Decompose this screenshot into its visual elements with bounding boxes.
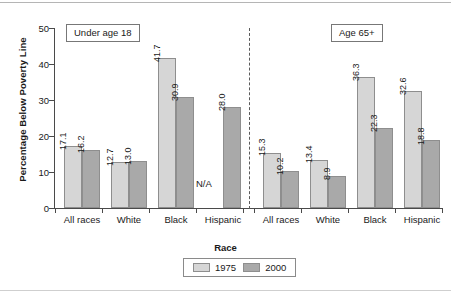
na-label-p0-hispanic-1975: N/A (196, 178, 212, 189)
bar-chart-figure: Percentage Below Poverty Line 0 10 20 30… (0, 0, 451, 294)
x-tick-0 (55, 208, 56, 213)
bar-value-p1-allraces-1975: 15.3 (257, 138, 267, 156)
legend-swatch-2000 (243, 263, 260, 272)
y-tick-label-0: 0 (25, 204, 49, 213)
bar-value-p0-hispanic-2000: 28.0 (217, 93, 227, 111)
panel-divider (249, 28, 250, 209)
y-tick-label-30: 30 (25, 96, 49, 105)
y-tick-label-50: 50 (25, 24, 49, 33)
legend-label-1975: 1975 (215, 262, 236, 273)
y-tick-20 (49, 136, 55, 137)
chart-legend: 1975 2000 (183, 258, 296, 277)
x-label-p1-hispanic: Hispanic (387, 214, 451, 225)
bar-p0-allraces-1975 (64, 146, 82, 208)
plot-area: 0 10 20 30 40 50 17.1 16.2 12.7 13.0 41.… (55, 28, 443, 208)
panel-annotation-under-18: Under age 18 (66, 24, 140, 42)
y-tick-30 (49, 100, 55, 101)
legend-label-2000: 2000 (265, 262, 286, 273)
bar-value-p1-hispanic-2000: 18.8 (416, 127, 426, 145)
bar-value-p0-black-1975: 41.7 (152, 44, 162, 62)
bar-value-p0-allraces-2000: 16.2 (76, 135, 86, 153)
bar-p1-black-2000 (375, 128, 393, 208)
y-axis-title: Percentage Below Poverty Line (17, 10, 28, 210)
bar-p0-white-1975 (111, 162, 129, 208)
bar-value-p1-white-2000: 8.9 (322, 167, 332, 180)
x-tick-8 (395, 208, 396, 213)
bar-value-p1-white-1975: 13.4 (304, 145, 314, 163)
x-tick-7 (348, 208, 349, 213)
bar-p0-black-2000 (176, 97, 194, 208)
bar-value-p1-black-2000: 22.3 (369, 114, 379, 132)
bar-value-p0-allraces-1975: 17.1 (58, 132, 68, 150)
bar-value-p0-white-1975: 12.7 (105, 148, 115, 166)
bar-value-p1-hispanic-1975: 32.6 (398, 77, 408, 95)
x-tick-4 (243, 208, 244, 213)
bar-value-p1-black-1975: 36.3 (351, 63, 361, 81)
legend-item-2000: 2000 (243, 262, 286, 273)
bar-p1-white-2000 (328, 176, 346, 208)
x-tick-6 (301, 208, 302, 213)
bar-p1-allraces-2000 (281, 171, 299, 208)
legend-swatch-1975 (193, 263, 210, 272)
x-tick-9 (442, 208, 443, 213)
bar-p0-white-2000 (129, 161, 147, 208)
y-tick-label-40: 40 (25, 60, 49, 69)
x-tick-1 (102, 208, 103, 213)
bar-p1-hispanic-2000 (422, 140, 440, 208)
bar-p1-black-1975 (357, 77, 375, 208)
y-axis-line (54, 28, 55, 209)
bar-value-p1-allraces-2000: 10.2 (275, 157, 285, 175)
bar-value-p0-white-2000: 13.0 (123, 147, 133, 165)
y-tick-50 (49, 28, 55, 29)
bar-value-p0-black-2000: 30.9 (170, 83, 180, 101)
x-axis-title: Race (0, 242, 451, 253)
panel-annotation-age-65: Age 65+ (331, 24, 383, 42)
legend-item-1975: 1975 (193, 262, 236, 273)
y-tick-10 (49, 172, 55, 173)
bar-p1-hispanic-1975 (404, 91, 422, 208)
bar-p0-black-1975 (158, 58, 176, 208)
x-tick-5 (254, 208, 255, 213)
y-tick-40 (49, 64, 55, 65)
y-tick-label-20: 20 (25, 132, 49, 141)
x-tick-3 (196, 208, 197, 213)
x-tick-2 (149, 208, 150, 213)
bar-p0-hispanic-2000 (223, 107, 241, 208)
y-tick-label-10: 10 (25, 168, 49, 177)
bar-p0-allraces-2000 (82, 150, 100, 208)
